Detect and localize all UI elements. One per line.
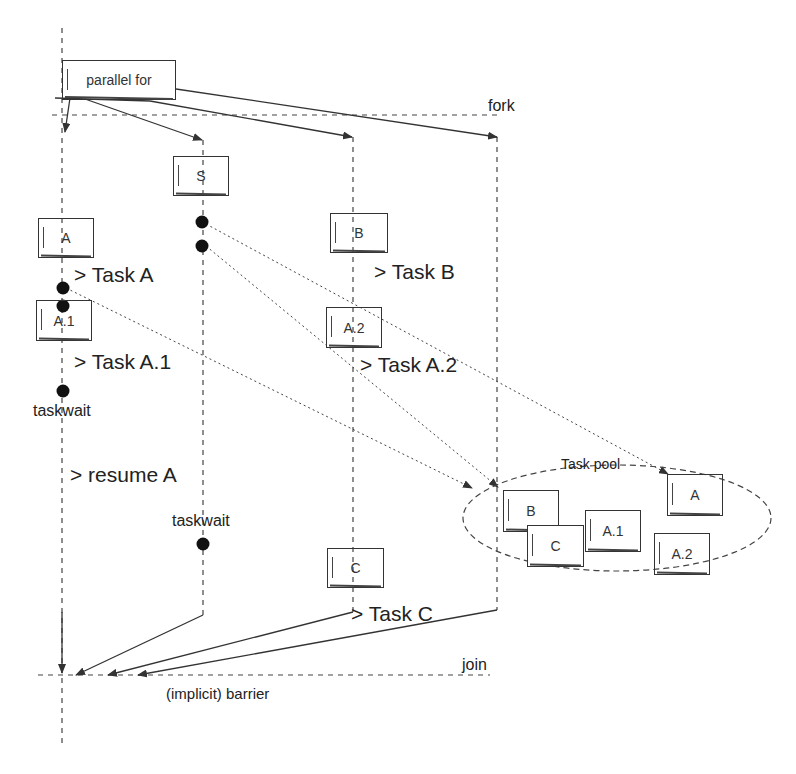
task-a2-annotation: > Task A.2 [360, 354, 457, 375]
spawn-dot-1 [196, 216, 209, 229]
task-c-label: C [350, 560, 360, 576]
taskwait-label-1: taskwait [33, 403, 91, 419]
pool-task-a2: A.2 [654, 533, 710, 575]
resume-a-annotation: > resume A [70, 464, 177, 485]
task-box-b: B [330, 213, 388, 253]
task-a-annotation: > Task A [74, 264, 154, 285]
pool-task-a: A [667, 474, 723, 516]
task-a-label: A [61, 230, 70, 246]
taskwait-dot-2 [197, 538, 210, 551]
parallel-for-label: parallel for [86, 72, 151, 88]
task-box-c: C [327, 548, 384, 588]
pool-task-a-label: A [690, 487, 699, 503]
spawn-dot-3 [57, 282, 70, 295]
barrier-label: (implicit) barrier [166, 686, 269, 701]
task-pool-label: Task pool [561, 457, 620, 471]
task-a1-label: A.1 [53, 313, 74, 329]
diagram-canvas: parallel for fork S A B A.1 A.2 C > Task… [0, 0, 796, 774]
task-box-a: A [38, 218, 94, 258]
fork-label: fork [488, 98, 515, 114]
pool-task-a1: A.1 [585, 510, 641, 552]
pool-task-a2-label: A.2 [671, 546, 692, 562]
join-label: join [462, 657, 487, 673]
task-s-label: S [196, 168, 205, 184]
diagram-lines [0, 0, 796, 774]
pool-task-c-label: C [550, 538, 560, 554]
taskwait-dot-1 [57, 385, 70, 398]
task-a1-annotation: > Task A.1 [74, 351, 171, 372]
taskwait-label-2: taskwait [172, 513, 230, 529]
pool-task-b-label: B [526, 503, 535, 519]
task-c-annotation: > Task C [351, 603, 433, 624]
task-b-annotation: > Task B [374, 261, 455, 282]
task-box-s: S [173, 156, 229, 196]
task-box-a1: A.1 [36, 300, 92, 341]
pool-task-c: C [527, 525, 584, 567]
parallel-for-box: parallel for [62, 60, 176, 100]
task-b-label: B [354, 225, 363, 241]
task-a2-label: A.2 [343, 320, 364, 336]
pool-task-a1-label: A.1 [602, 523, 623, 539]
spawn-dot-2 [196, 240, 209, 253]
task-box-a2: A.2 [326, 307, 382, 348]
